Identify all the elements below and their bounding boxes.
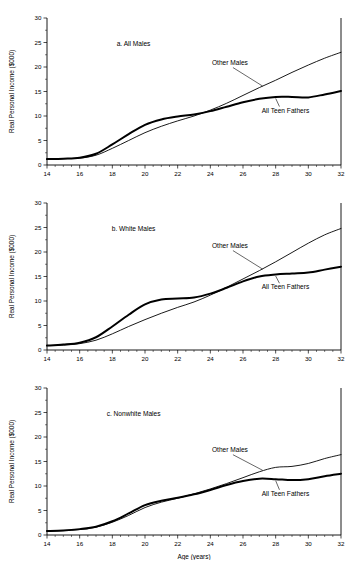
series-annotation-teen-fathers: All Teen Fathers [262, 490, 310, 497]
chart-svg-c: 05101520253014161820222426283032Real Per… [0, 380, 350, 560]
chart-panel-c: 05101520253014161820222426283032Real Per… [0, 380, 350, 560]
x-tick-label: 18 [109, 170, 116, 177]
x-tick-label: 30 [305, 540, 312, 547]
x-tick-label: 24 [207, 540, 214, 547]
y-tick-label: 25 [35, 409, 42, 416]
y-tick-label: 25 [35, 224, 42, 231]
x-tick-label: 30 [305, 170, 312, 177]
series-annotation-other-males: Other Males [212, 242, 249, 249]
y-tick-label: 5 [38, 507, 42, 514]
series-annotation-teen-fathers: All Teen Fathers [262, 107, 310, 114]
x-axis-ticks-b: 14161820222426283032 [44, 350, 345, 362]
axes-b [47, 203, 341, 350]
y-axis-title: Real Personal Income ($000) [8, 420, 16, 503]
y-tick-label: 25 [35, 39, 42, 46]
leader-line-teen-fathers [276, 481, 280, 490]
series-annotation-other-males: Other Males [212, 446, 249, 453]
x-tick-label: 26 [240, 355, 247, 362]
series-line-all-teen-fathers [47, 91, 341, 159]
panel-title-a: a. All Males [117, 40, 151, 47]
y-tick-label: 30 [35, 14, 42, 21]
y-tick-label: 5 [38, 322, 42, 329]
figure-container: 05101520253014161820222426283032Real Per… [0, 0, 350, 563]
y-tick-label: 0 [38, 161, 42, 168]
leader-line-teen-fathers [276, 98, 280, 106]
leader-line-other-males [233, 68, 263, 87]
y-tick-label: 10 [35, 482, 42, 489]
x-tick-label: 20 [142, 355, 149, 362]
x-axis-ticks-c: 14161820222426283032 [44, 535, 345, 547]
y-axis-ticks-b: 051015202530 [35, 199, 47, 353]
axes-a [47, 18, 341, 165]
x-tick-label: 16 [76, 540, 83, 547]
y-tick-label: 30 [35, 384, 42, 391]
x-tick-label: 30 [305, 355, 312, 362]
y-tick-label: 20 [35, 63, 42, 70]
x-tick-label: 16 [76, 355, 83, 362]
y-tick-label: 20 [35, 433, 42, 440]
x-tick-label: 18 [109, 355, 116, 362]
y-axis-ticks-a: 051015202530 [35, 14, 47, 168]
series-line-all-teen-fathers [47, 474, 341, 531]
x-tick-label: 14 [44, 170, 51, 177]
x-tick-label: 22 [174, 355, 181, 362]
axes-c [47, 388, 341, 535]
chart-panel-a: 05101520253014161820222426283032Real Per… [0, 10, 350, 190]
x-tick-label: 20 [142, 540, 149, 547]
y-tick-label: 5 [38, 137, 42, 144]
chart-svg-a: 05101520253014161820222426283032Real Per… [0, 10, 350, 190]
chart-panel-b: 05101520253014161820222426283032Real Per… [0, 195, 350, 375]
y-axis-ticks-c: 051015202530 [35, 384, 47, 538]
leader-line-other-males [233, 455, 263, 471]
series-line-all-teen-fathers [47, 267, 341, 346]
x-tick-label: 26 [240, 540, 247, 547]
x-tick-label: 32 [338, 170, 345, 177]
y-tick-label: 10 [35, 112, 42, 119]
x-tick-label: 26 [240, 170, 247, 177]
x-tick-label: 22 [174, 540, 181, 547]
x-tick-label: 14 [44, 540, 51, 547]
x-tick-label: 32 [338, 540, 345, 547]
y-axis-title: Real Personal Income ($000) [8, 235, 16, 318]
y-tick-label: 15 [35, 88, 42, 95]
panel-title-c: c. Nonwhite Males [107, 410, 162, 417]
x-tick-label: 28 [272, 540, 279, 547]
x-axis-title: Age (years) [177, 553, 210, 560]
leader-line-teen-fathers [276, 276, 280, 283]
x-tick-label: 16 [76, 170, 83, 177]
x-tick-label: 24 [207, 355, 214, 362]
series-annotation-other-males: Other Males [212, 59, 249, 66]
x-tick-label: 22 [174, 170, 181, 177]
y-tick-label: 30 [35, 199, 42, 206]
x-axis-ticks-a: 14161820222426283032 [44, 165, 345, 177]
x-tick-label: 28 [272, 355, 279, 362]
x-tick-label: 24 [207, 170, 214, 177]
leader-line-other-males [233, 251, 263, 270]
chart-svg-b: 05101520253014161820222426283032Real Per… [0, 195, 350, 375]
y-tick-label: 10 [35, 297, 42, 304]
y-axis-title: Real Personal Income ($000) [8, 50, 16, 133]
x-tick-label: 20 [142, 170, 149, 177]
x-tick-label: 18 [109, 540, 116, 547]
y-tick-label: 15 [35, 458, 42, 465]
y-tick-label: 20 [35, 248, 42, 255]
panel-title-b: b. White Males [112, 225, 156, 232]
x-tick-label: 32 [338, 355, 345, 362]
x-tick-label: 14 [44, 355, 51, 362]
y-tick-label: 0 [38, 346, 42, 353]
series-annotation-teen-fathers: All Teen Fathers [262, 283, 310, 290]
y-tick-label: 0 [38, 531, 42, 538]
y-tick-label: 15 [35, 273, 42, 280]
x-tick-label: 28 [272, 170, 279, 177]
